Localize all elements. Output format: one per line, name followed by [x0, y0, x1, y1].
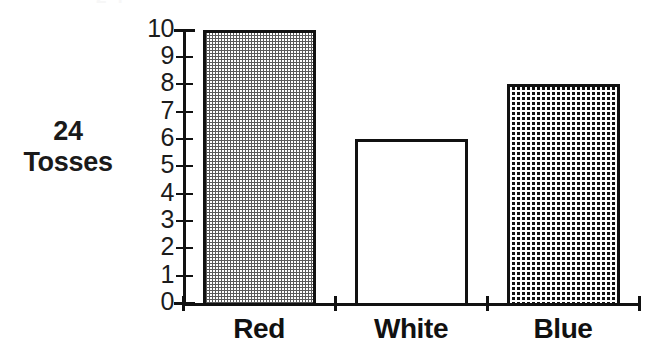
y-axis-tick [174, 29, 195, 32]
y-axis-tick [176, 83, 193, 85]
x-axis-tick [638, 296, 641, 311]
category-label-red: Red [183, 313, 335, 345]
y-axis-tick-label: 3 [136, 205, 174, 234]
y-axis-tick-label: 1 [136, 260, 174, 289]
category-label-white: White [335, 313, 487, 345]
bar-chart-figure: 2 4 24 Tosses 012345678910 RedWhiteBlue [0, 0, 648, 354]
y-axis-tick [176, 56, 193, 58]
bar-blue [507, 84, 620, 306]
y-axis-tick-label: 2 [136, 232, 174, 261]
y-axis-tick-label: 6 [136, 123, 174, 152]
y-axis-tick-label: 4 [136, 178, 174, 207]
y-axis-tick-label: 5 [136, 150, 174, 179]
y-axis-tick [176, 111, 193, 113]
y-axis-tick-label: 7 [136, 96, 174, 125]
y-axis-line [183, 29, 186, 306]
y-axis-tick-label: 10 [136, 14, 174, 43]
bar-white [355, 139, 468, 306]
y-axis-tick [176, 275, 193, 277]
y-axis-tick [176, 165, 193, 167]
y-axis-tick [176, 247, 193, 249]
y-axis-tick [176, 138, 193, 140]
y-axis-tick-label: 8 [136, 68, 174, 97]
category-label-blue: Blue [487, 313, 639, 345]
x-axis-tick [182, 296, 185, 311]
y-axis-tick [176, 220, 193, 222]
plot-area: 012345678910 RedWhiteBlue [0, 0, 648, 354]
bar-red [203, 30, 316, 307]
y-axis-tick [176, 193, 193, 195]
x-axis-tick [486, 296, 489, 311]
y-axis-tick-label: 9 [136, 41, 174, 70]
x-axis-tick [334, 296, 337, 311]
y-axis-tick-label: 0 [136, 287, 174, 316]
